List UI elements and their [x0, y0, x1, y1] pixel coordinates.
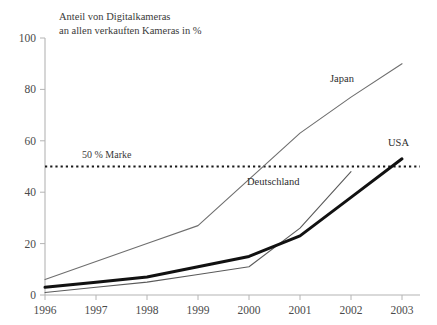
x-axis	[45, 295, 420, 300]
x-tick-label: 1997	[85, 304, 108, 316]
y-tick-label: 40	[25, 186, 37, 198]
y-tick-label: 80	[25, 83, 37, 95]
x-tick-label: 1998	[136, 304, 159, 316]
series-label-usa: USA	[388, 137, 409, 148]
x-tick-label: 2001	[289, 304, 312, 316]
chart-title-line1: Anteil von Digitalkameras	[59, 11, 170, 22]
fifty-percent-marker: 50 % Marke	[45, 149, 420, 167]
y-tick-labels: 100 80 60 40 20 0	[19, 32, 37, 301]
fifty-percent-label: 50 % Marke	[82, 149, 132, 160]
x-tick-label: 2003	[391, 304, 414, 316]
y-tick-label: 60	[25, 135, 37, 147]
chart-container: Anteil von Digitalkameras an allen verka…	[0, 0, 437, 325]
y-tick-label: 100	[19, 32, 37, 44]
line-chart: Anteil von Digitalkameras an allen verka…	[0, 0, 437, 325]
y-tick-label: 0	[30, 289, 36, 301]
chart-title-line2: an allen verkauften Kameras in %	[59, 25, 202, 36]
series-label-japan: Japan	[330, 73, 355, 84]
y-tick-label: 20	[25, 238, 37, 250]
series-group	[45, 64, 402, 293]
series-label-deutschland: Deutschland	[247, 176, 300, 187]
x-tick-labels: 1996 1997 1998 1999 2000 2001 2002 2003	[34, 304, 414, 316]
x-tick-label: 1996	[34, 304, 57, 316]
x-tick-label: 2002	[340, 304, 363, 316]
y-axis	[40, 38, 45, 295]
series-line-japan	[45, 64, 402, 280]
x-tick-label: 1999	[187, 304, 210, 316]
x-tick-label: 2000	[238, 304, 261, 316]
series-line-usa	[45, 159, 402, 288]
